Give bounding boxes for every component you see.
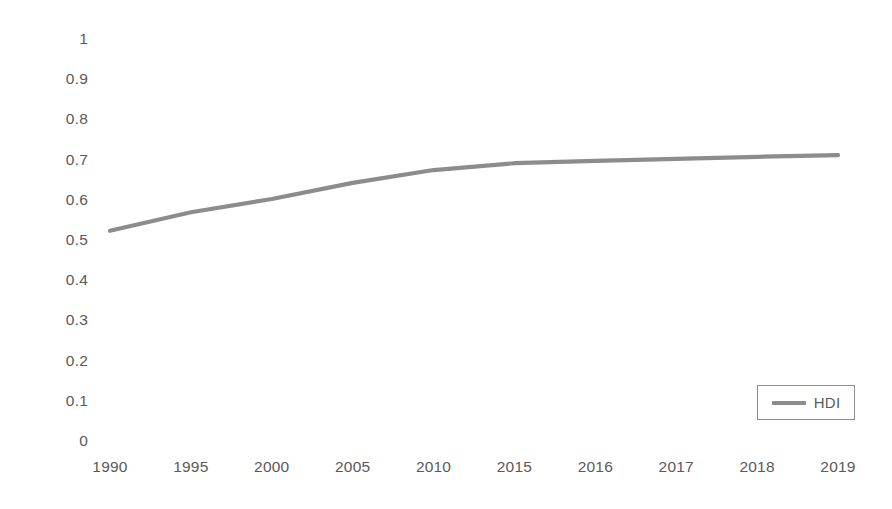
x-tick-label: 2005: [313, 458, 393, 475]
hdi-line-chart: 00.10.20.30.40.50.60.70.80.91 1990199520…: [0, 0, 892, 509]
x-tick-label: 2019: [798, 458, 878, 475]
x-tick-label: 2015: [474, 458, 554, 475]
x-tick-label: 2000: [232, 458, 312, 475]
chart-legend: HDI: [757, 385, 855, 420]
x-tick-label: 1995: [151, 458, 231, 475]
x-tick-label: 2010: [394, 458, 474, 475]
x-tick-label: 1990: [70, 458, 150, 475]
x-axis: 1990199520002005201020152016201720182019: [0, 0, 892, 509]
x-tick-label: 2016: [555, 458, 635, 475]
line-swatch-icon: [772, 401, 806, 405]
x-tick-label: 2018: [717, 458, 797, 475]
x-tick-label: 2017: [636, 458, 716, 475]
legend-entry-label: HDI: [814, 395, 841, 411]
